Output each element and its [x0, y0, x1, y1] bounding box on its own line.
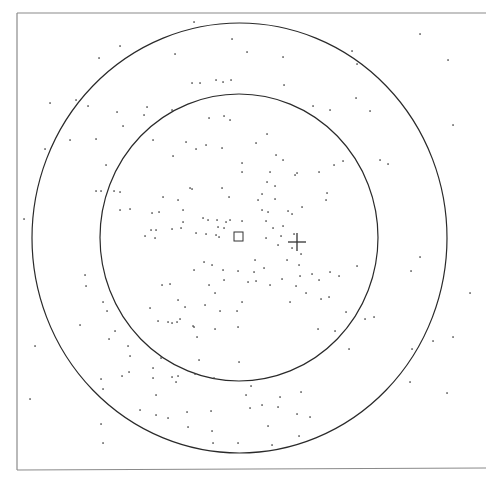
- scatter-point: [279, 396, 281, 398]
- scatter-point: [245, 394, 247, 396]
- scatter-point: [34, 345, 36, 347]
- scatter-point: [223, 279, 225, 281]
- scatter-point: [225, 221, 227, 223]
- scatter-point: [167, 321, 169, 323]
- scatter-point: [452, 124, 454, 126]
- frame-bottom-edge: [17, 468, 486, 470]
- scatter-point: [102, 442, 104, 444]
- scatter-point: [113, 190, 115, 192]
- scatter-point: [282, 225, 284, 227]
- scatter-point: [102, 301, 104, 303]
- scatter-point: [155, 394, 157, 396]
- scatter-point: [255, 280, 256, 282]
- scatter-point: [105, 164, 107, 166]
- scatter-point: [387, 163, 389, 165]
- scatter-point: [238, 361, 240, 363]
- scatter-point: [155, 414, 157, 416]
- scatter-point: [287, 210, 289, 212]
- scatter-point: [410, 270, 412, 272]
- scatter-point: [348, 348, 350, 350]
- scatter-point: [161, 284, 163, 286]
- scatter-point: [207, 219, 209, 221]
- scatter-point: [155, 229, 157, 231]
- scatter-point: [216, 219, 218, 221]
- scatter-point: [373, 316, 375, 318]
- scatter-point: [160, 357, 162, 359]
- scatter-point: [282, 56, 284, 58]
- scatter-point: [267, 211, 269, 213]
- scatter-point: [215, 234, 217, 236]
- scatter-point: [277, 406, 279, 408]
- scatter-point: [69, 139, 71, 141]
- scatter-point: [114, 330, 116, 332]
- scatter-point: [237, 270, 239, 272]
- scatter-point: [100, 190, 102, 192]
- scatter-point: [247, 281, 249, 283]
- scatter-point: [186, 411, 188, 413]
- scatter-point: [108, 338, 110, 340]
- scatter-point: [289, 301, 291, 303]
- scatter-point: [265, 237, 267, 239]
- scatter-point: [419, 256, 421, 258]
- scatter-point: [95, 190, 97, 192]
- scatter-point: [269, 171, 271, 173]
- scatter-point: [177, 199, 179, 201]
- scatter-point: [241, 301, 243, 303]
- scatter-point: [185, 141, 187, 143]
- scatter-point: [222, 81, 224, 83]
- scatter-point: [369, 110, 371, 112]
- scatter-point: [311, 273, 313, 275]
- plot-frame: [17, 13, 486, 470]
- scatter-point: [261, 193, 263, 195]
- scatter-point: [355, 97, 357, 99]
- scatter-point: [44, 148, 46, 150]
- scatter-point: [152, 377, 154, 379]
- scatter-point: [334, 330, 336, 332]
- scatter-point: [193, 269, 195, 271]
- scatter-point: [49, 102, 51, 104]
- scatter-point: [177, 299, 179, 301]
- scatter-point: [146, 106, 148, 108]
- scatter-point: [221, 187, 223, 189]
- scatter-point: [446, 392, 448, 394]
- scatter-point: [241, 220, 243, 222]
- scatter-point: [230, 79, 232, 81]
- scatter-point: [272, 227, 274, 229]
- scatter-point: [171, 322, 173, 324]
- scatter-point: [329, 271, 331, 273]
- scatter-point: [223, 227, 225, 229]
- scatter-point: [187, 426, 189, 428]
- scatter-point: [277, 244, 279, 246]
- scatter-point: [237, 442, 239, 444]
- scatter-point: [338, 275, 340, 277]
- scatter-point: [379, 159, 381, 161]
- scatter-point: [269, 284, 271, 286]
- scatter-point: [254, 259, 256, 261]
- scatter-point: [157, 320, 159, 322]
- scatter-point: [333, 164, 335, 166]
- scatter-point: [177, 375, 179, 377]
- scatter-point: [119, 191, 121, 193]
- scatter-point: [249, 407, 251, 409]
- scatter-point: [411, 348, 413, 350]
- scatter-point: [253, 271, 255, 273]
- scatter-point: [162, 196, 164, 198]
- scatter-point: [119, 209, 121, 211]
- scatter-point: [122, 125, 124, 127]
- scatter-point: [318, 279, 320, 281]
- scatter-point: [280, 235, 282, 237]
- scatter-point: [191, 82, 193, 84]
- scatter-point: [291, 247, 293, 249]
- scatter-point: [193, 326, 195, 328]
- scatter-point: [326, 192, 328, 194]
- scatter-point: [129, 355, 131, 357]
- scatter-point: [189, 187, 191, 189]
- scatter-point: [356, 63, 358, 65]
- scatter-point: [195, 148, 197, 150]
- scatter-point: [128, 371, 130, 373]
- scatter-point: [158, 211, 160, 213]
- scatter-point: [174, 53, 176, 55]
- scatter-point: [171, 228, 173, 230]
- scatter-point: [210, 410, 212, 412]
- scatter-point: [447, 59, 449, 61]
